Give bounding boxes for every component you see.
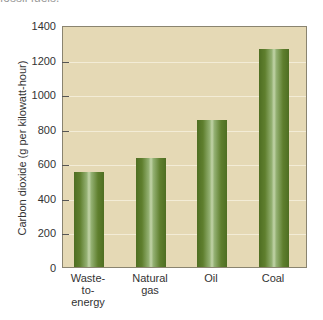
y-tick-label: 1200 [32, 55, 56, 67]
y-tick-label: 400 [38, 193, 56, 205]
y-tick-label: 200 [38, 227, 56, 239]
y-tick-mark [62, 62, 69, 63]
bar [136, 158, 166, 267]
y-tick-label: 800 [38, 124, 56, 136]
y-tick-mark [62, 96, 69, 97]
x-tick-label: Natural gas [120, 272, 180, 296]
y-tick-mark [62, 165, 69, 166]
y-tick-label: 600 [38, 158, 56, 170]
x-tick-label: Oil [181, 272, 241, 284]
plot-area [62, 26, 307, 268]
x-tick-label: Coal [243, 272, 303, 284]
y-tick-label: 0 [50, 262, 56, 274]
cropped-caption: fossil fuels. [0, 0, 59, 5]
bar [74, 172, 104, 267]
x-tick-label: Waste- to- energy [58, 272, 118, 308]
y-tick-mark [62, 131, 69, 132]
y-tick-label: 1400 [32, 20, 56, 32]
y-tick-mark [62, 234, 69, 235]
bar [197, 120, 227, 267]
y-tick-label: 1000 [32, 89, 56, 101]
bar [259, 49, 289, 267]
y-axis-label: Carbon dioxide (g per kilowatt-hour) [16, 58, 28, 238]
y-tick-mark [62, 200, 69, 201]
